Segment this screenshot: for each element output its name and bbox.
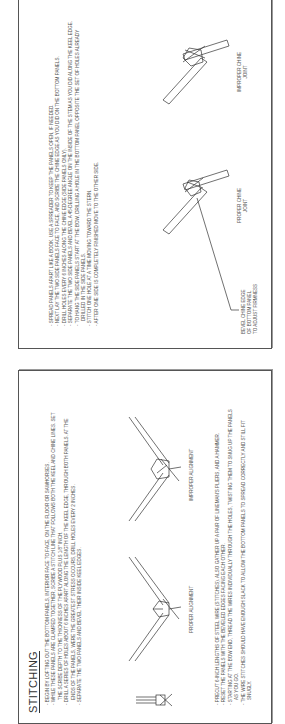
page-sheet: STITCHING Begin by lofting out the botto… (18, 370, 272, 724)
document-page-1: STITCHING Begin by lofting out the botto… (18, 372, 270, 724)
step-item: Next lay the two side panels face to fac… (55, 18, 61, 328)
document-page-2: Spread panels apart like a book. Use a s… (18, 0, 270, 349)
step-item: While these panels are clamped together,… (51, 407, 64, 707)
improper-chine-joint-label: IMPROPER CHINE JOINT (237, 52, 249, 92)
step-item: The wire stitches should have enough sla… (241, 407, 254, 707)
step-item: After one side is completely finished mo… (94, 18, 100, 328)
step-item: Separate the two side panels and bevel a… (68, 18, 74, 328)
page-title: STITCHING (27, 651, 39, 713)
step-item: Drill a series of holes about 6 inches a… (64, 407, 77, 707)
improper-alignment-figure (123, 413, 183, 523)
bevel-leader-line (189, 188, 249, 318)
stitch-end-view-icon (134, 687, 174, 711)
step-item: To hang the side panels start at the bow… (75, 18, 88, 328)
improper-alignment-label: IMPROPER ALIGNMENT (189, 449, 195, 501)
side-panel-steps: Spread panels apart like a book. Use a s… (49, 18, 100, 328)
page-sheet: Spread panels apart like a book. Use a s… (18, 0, 272, 349)
step-item: Separate the two panels and bevel their … (77, 407, 83, 707)
proper-alignment-label: PROPER ALIGNMENT (189, 586, 195, 633)
improper-chine-joint-figure (147, 18, 227, 108)
stitching-steps-bottom: Precut 6-inch lengths of steel wire (sti… (215, 407, 253, 707)
step-item: Starting at the bow end, thread the wire… (228, 407, 241, 707)
stitching-steps-top: Begin by lofting out the bottom panels, … (45, 407, 83, 707)
proper-alignment-figure (123, 553, 183, 663)
